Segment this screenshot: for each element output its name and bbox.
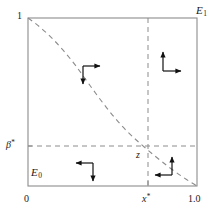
y-axis-tick-label-beta-star: β* <box>6 140 15 150</box>
figure-canvas <box>0 0 222 216</box>
corner-label-e0-base: E <box>31 166 38 178</box>
corner-label-e1-base: E <box>196 4 203 16</box>
x-axis-tick-label-x-star: x* <box>142 194 150 204</box>
corner-label-e1: E1 <box>196 5 207 17</box>
arrow-cluster-upper-curve <box>83 66 100 84</box>
star-glyph: * <box>11 139 15 147</box>
x-axis-tick-label-1: 1.0 <box>188 194 201 204</box>
equilibrium-point-label: z <box>136 150 140 160</box>
axis-ticks <box>28 146 148 186</box>
phase-plane-figure: E1 E0 1 β* 0 x* 1.0 z <box>0 0 222 216</box>
corner-label-e0-subscript: 0 <box>38 171 42 180</box>
arrow-cluster-lower-curve <box>155 157 172 175</box>
arrow-cluster-top-right <box>163 52 181 71</box>
x-axis-tick-label-0: 0 <box>24 194 29 204</box>
corner-label-e0: E0 <box>31 167 42 179</box>
corner-label-e1-subscript: 1 <box>203 9 207 18</box>
arrow-cluster-bottom-left <box>76 163 93 181</box>
y-axis-tick-label-1: 1 <box>17 11 22 21</box>
star-glyph: * <box>146 193 150 201</box>
